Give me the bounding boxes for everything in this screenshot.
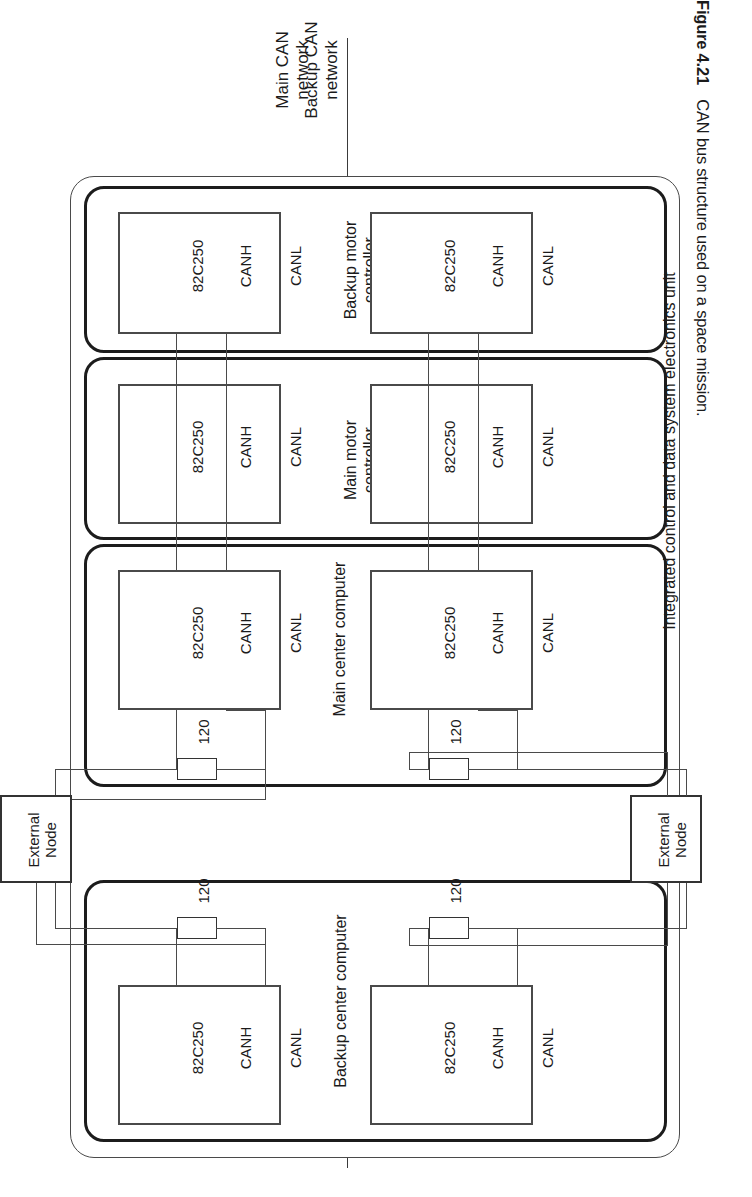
transceiver-part-label: 82C250 xyxy=(441,563,463,703)
transceiver-part-label: 82C250 xyxy=(189,563,211,703)
transceiver-canl-label: CANL xyxy=(287,978,309,1118)
stub-mmc-main-canh xyxy=(176,524,177,570)
terminator-main-canl-lead xyxy=(265,710,266,770)
stub-bmc-main-canh xyxy=(176,334,177,384)
transceiver-canh-label: CANH xyxy=(237,563,259,703)
extnode-backup-wire-d xyxy=(667,883,668,946)
label-main-center-computer: Main center computer xyxy=(331,539,353,739)
external-main-canl-drop xyxy=(265,769,266,800)
terminator-bcc-backup-canl-lead xyxy=(517,928,518,985)
transceiver-canh-label: CANH xyxy=(237,377,259,517)
terminator-bcc-backup-canl-branch xyxy=(468,928,538,929)
transceiver-canh-label: CANH xyxy=(489,978,511,1118)
transceiver-canl-label: CANL xyxy=(539,978,561,1118)
terminator-value-backup-center-computer: 120 xyxy=(195,851,215,931)
extnode-backup-wire-d-run xyxy=(409,945,668,946)
extnode-main-wire-a xyxy=(55,883,56,928)
transceiver-backup-main-motor-controller: 82C250 CANH CANL xyxy=(370,384,533,524)
stub-mmc-backup-canl xyxy=(478,524,479,570)
extnode-backup-wire-b-up xyxy=(409,752,410,770)
terminator-backup-canl-tie xyxy=(478,710,518,711)
transceiver-part-label: 82C250 xyxy=(189,196,211,336)
extnode-main-wire-b-up xyxy=(265,928,266,945)
transceiver-canl-label: CANL xyxy=(539,196,561,336)
transceiver-canh-label: CANH xyxy=(489,196,511,336)
transceiver-canl-label: CANL xyxy=(287,196,309,336)
transceiver-part-label: 82C250 xyxy=(441,377,463,517)
terminator-bcc-main-canh-branch xyxy=(55,928,177,929)
figure-root: Main CAN network Backup CAN network Back… xyxy=(0,0,752,1197)
figure-caption-text: CAN bus structure used on a space missio… xyxy=(694,99,712,416)
terminator-value-backup-main-center: 120 xyxy=(447,692,467,772)
transceiver-canl-label: CANL xyxy=(539,377,561,517)
figure-number: Figure 4.21 xyxy=(694,0,712,85)
transceiver-part-label: 82C250 xyxy=(441,196,463,336)
transceiver-canh-label: CANH xyxy=(489,377,511,517)
extnode-main-wire-b-run xyxy=(36,944,266,945)
label-backup-center-computer: Backup center computer xyxy=(332,901,354,1101)
extnode-main-wire-b xyxy=(36,883,37,945)
stub-bmc-backup-canh xyxy=(428,334,429,384)
terminator-bcc-backup-canh-branch xyxy=(409,928,429,929)
extnode-backup-wire-b xyxy=(667,752,668,796)
transceiver-main-backup-center-computer: 82C250 CANH CANL xyxy=(118,985,281,1125)
terminator-main-canh-branch xyxy=(55,769,177,770)
transceiver-canh-label: CANH xyxy=(237,978,259,1118)
stub-mmc-main-canl xyxy=(226,524,227,570)
extnode-backup-wire-c-run xyxy=(538,928,687,929)
extnode-backup-wire-b-run xyxy=(409,752,668,753)
transceiver-canl-label: CANL xyxy=(287,377,309,517)
transceiver-part-label: 82C250 xyxy=(189,978,211,1118)
transceiver-canh-label: CANH xyxy=(237,196,259,336)
transceiver-main-main-center-computer: 82C250 CANH CANL xyxy=(118,570,281,710)
terminator-bcc-main-canl-branch xyxy=(216,928,266,929)
terminator-main-canl-branch xyxy=(216,769,266,770)
transceiver-canl-label: CANL xyxy=(539,563,561,703)
extnode-backup-wire-a-run xyxy=(518,769,687,770)
label-backup-can-network: Backup CAN network xyxy=(302,0,342,170)
stub-bmc-backup-canl xyxy=(478,334,479,384)
transceiver-canl-label: CANL xyxy=(287,563,309,703)
terminator-value-backup-center-backup: 120 xyxy=(447,851,467,931)
transceiver-main-backup-motor-controller: 82C250 CANH CANL xyxy=(118,212,281,334)
transceiver-main-main-motor-controller: 82C250 CANH CANL xyxy=(118,384,281,524)
transceiver-canh-label: CANH xyxy=(489,563,511,703)
terminator-backup-canl-branch xyxy=(468,769,518,770)
terminator-value-main-center-computer: 120 xyxy=(195,692,215,772)
terminator-backup-canh-branch xyxy=(409,769,429,770)
transceiver-backup-main-center-computer: 82C250 CANH CANL xyxy=(370,570,533,710)
transceiver-part-label: 82C250 xyxy=(441,978,463,1118)
stub-bmc-main-canl xyxy=(226,334,227,384)
extnode-backup-wire-d-up xyxy=(409,928,410,946)
transceiver-backup-backup-center-computer: 82C250 CANH CANL xyxy=(370,985,533,1125)
transceiver-backup-backup-motor-controller: 82C250 CANH CANL xyxy=(370,212,533,334)
stub-mmc-backup-canh xyxy=(428,524,429,570)
terminator-backup-canl-lead xyxy=(517,710,518,770)
terminator-main-canl-tie xyxy=(226,710,266,711)
transceiver-part-label: 82C250 xyxy=(189,377,211,517)
figure-caption: Figure 4.21 CAN bus structure used on a … xyxy=(672,0,712,1150)
